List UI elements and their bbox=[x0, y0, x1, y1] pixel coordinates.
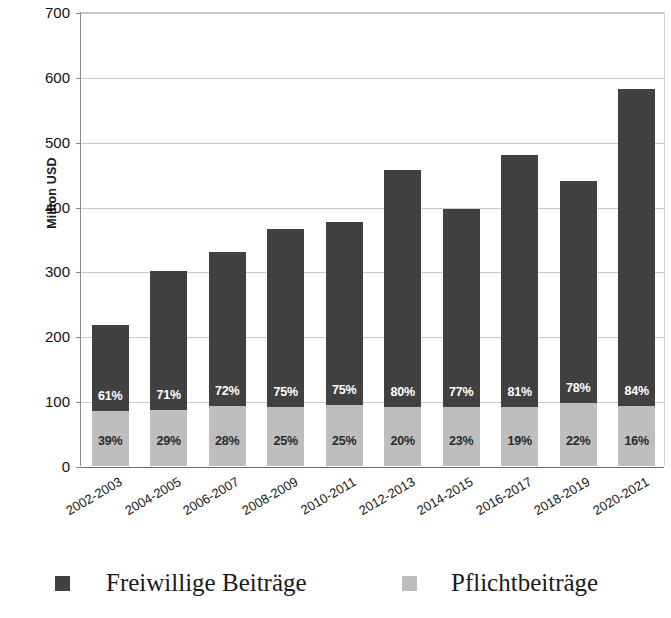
y-tick-label-200: 200 bbox=[45, 328, 70, 345]
legend-entry-pflichtbeitraege: Pflichtbeiträge bbox=[402, 556, 598, 610]
bar-segment-freiwillige-beitraege[interactable]: 81% bbox=[501, 155, 538, 407]
y-axis-tick-labels: 7006005004003002001000 bbox=[28, 12, 76, 466]
bar-group[interactable]: 25%75% bbox=[267, 12, 304, 466]
bar-segment-percent-label: 71% bbox=[150, 388, 187, 402]
y-tick-label-600: 600 bbox=[45, 68, 70, 85]
y-tick-label-100: 100 bbox=[45, 393, 70, 410]
bar-segment-freiwillige-beitraege[interactable]: 61% bbox=[92, 325, 129, 411]
bar-segment-percent-label: 81% bbox=[501, 385, 538, 399]
bar-segment-percent-label: 39% bbox=[92, 434, 129, 448]
bar-segment-percent-label: 19% bbox=[501, 434, 538, 448]
bar-segment-percent-label: 61% bbox=[92, 389, 129, 403]
bar-segment-percent-label: 75% bbox=[326, 383, 363, 397]
x-tick-label: 2006-2007 bbox=[181, 474, 242, 518]
x-axis-tick-labels: 2002-20032004-20052006-20072008-20092010… bbox=[80, 466, 665, 546]
legend-label-freiwillige-beitraege: Freiwillige Beiträge bbox=[106, 569, 307, 597]
x-tick-label: 2020-2021 bbox=[590, 474, 651, 518]
bar-segment-freiwillige-beitraege[interactable]: 78% bbox=[560, 181, 597, 403]
bar-segment-pflichtbeitraege[interactable]: 28% bbox=[209, 406, 246, 466]
bar-segment-pflichtbeitraege[interactable]: 25% bbox=[326, 405, 363, 466]
bar-segment-freiwillige-beitraege[interactable]: 80% bbox=[384, 170, 421, 407]
bar-segment-percent-label: 23% bbox=[443, 434, 480, 448]
y-tick-label-700: 700 bbox=[45, 4, 70, 21]
bar-series-container: 39%61%29%71%28%72%25%75%25%75%20%80%23%7… bbox=[81, 13, 664, 466]
bar-group[interactable]: 29%71% bbox=[150, 12, 187, 466]
bar-segment-pflichtbeitraege[interactable]: 16% bbox=[618, 406, 655, 466]
bar-segment-percent-label: 72% bbox=[209, 384, 246, 398]
bar-segment-percent-label: 25% bbox=[267, 434, 304, 448]
bar-segment-freiwillige-beitraege[interactable]: 77% bbox=[443, 209, 480, 407]
bar-segment-percent-label: 80% bbox=[384, 385, 421, 399]
bar-group[interactable]: 28%72% bbox=[209, 12, 246, 466]
bar-group[interactable]: 22%78% bbox=[560, 12, 597, 466]
y-tick-label-0: 0 bbox=[62, 458, 70, 475]
stacked-bar-chart: Million USD 7006005004003002001000 39%61… bbox=[0, 0, 671, 618]
plot-area: 39%61%29%71%28%72%25%75%25%75%20%80%23%7… bbox=[80, 12, 665, 466]
legend-swatch-dark bbox=[55, 576, 70, 591]
bar-segment-percent-label: 20% bbox=[384, 434, 421, 448]
y-tick-label-400: 400 bbox=[45, 198, 70, 215]
x-tick-label: 2010-2011 bbox=[298, 474, 359, 518]
bar-segment-freiwillige-beitraege[interactable]: 75% bbox=[267, 229, 304, 407]
x-tick-label: 2016-2017 bbox=[473, 474, 534, 518]
bar-group[interactable]: 19%81% bbox=[501, 12, 538, 466]
bar-segment-percent-label: 84% bbox=[618, 384, 655, 398]
bar-segment-percent-label: 25% bbox=[326, 434, 363, 448]
bar-group[interactable]: 25%75% bbox=[326, 12, 363, 466]
y-tick-label-300: 300 bbox=[45, 263, 70, 280]
bar-group[interactable]: 23%77% bbox=[443, 12, 480, 466]
bar-segment-freiwillige-beitraege[interactable]: 71% bbox=[150, 271, 187, 409]
bar-segment-percent-label: 29% bbox=[150, 434, 187, 448]
bar-segment-pflichtbeitraege[interactable]: 39% bbox=[92, 411, 129, 466]
legend-swatch-light bbox=[402, 576, 417, 591]
bar-group[interactable]: 39%61% bbox=[92, 12, 129, 466]
legend-label-pflichtbeitraege: Pflichtbeiträge bbox=[451, 569, 598, 597]
bar-segment-percent-label: 28% bbox=[209, 434, 246, 448]
y-tick-label-500: 500 bbox=[45, 133, 70, 150]
bar-segment-percent-label: 78% bbox=[560, 381, 597, 395]
x-tick-label: 2004-2005 bbox=[122, 474, 183, 518]
x-tick-label: 2014-2015 bbox=[415, 474, 476, 518]
bar-segment-freiwillige-beitraege[interactable]: 75% bbox=[326, 222, 363, 406]
x-tick-label: 2002-2003 bbox=[64, 474, 125, 518]
bar-segment-pflichtbeitraege[interactable]: 23% bbox=[443, 407, 480, 466]
legend-entry-freiwillige-beitraege: Freiwillige Beiträge bbox=[55, 556, 307, 610]
bar-segment-percent-label: 22% bbox=[560, 434, 597, 448]
x-tick-label: 2018-2019 bbox=[532, 474, 593, 518]
bar-segment-pflichtbeitraege[interactable]: 19% bbox=[501, 407, 538, 466]
bar-group[interactable]: 16%84% bbox=[618, 12, 655, 466]
x-tick-label: 2012-2013 bbox=[356, 474, 417, 518]
bar-segment-freiwillige-beitraege[interactable]: 72% bbox=[209, 252, 246, 406]
bar-segment-pflichtbeitraege[interactable]: 29% bbox=[150, 410, 187, 466]
bar-segment-percent-label: 75% bbox=[267, 385, 304, 399]
x-tick-label: 2008-2009 bbox=[239, 474, 300, 518]
bar-segment-freiwillige-beitraege[interactable]: 84% bbox=[618, 89, 655, 406]
chart-legend: Freiwillige Beiträge Pflichtbeiträge bbox=[0, 556, 671, 618]
bar-segment-pflichtbeitraege[interactable]: 22% bbox=[560, 403, 597, 466]
bar-segment-pflichtbeitraege[interactable]: 20% bbox=[384, 407, 421, 466]
bar-segment-percent-label: 16% bbox=[618, 434, 655, 448]
bar-segment-percent-label: 77% bbox=[443, 385, 480, 399]
bar-group[interactable]: 20%80% bbox=[384, 12, 421, 466]
bar-segment-pflichtbeitraege[interactable]: 25% bbox=[267, 407, 304, 466]
